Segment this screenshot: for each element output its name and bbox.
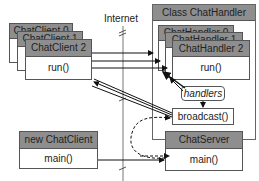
connector-lines [0, 0, 259, 181]
